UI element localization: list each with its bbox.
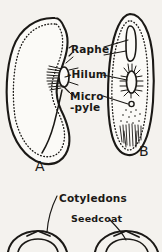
seed-a-outline	[7, 18, 70, 164]
label-micropyle-line2: -pyle	[70, 101, 100, 113]
seedhalf-left-outline	[8, 231, 67, 252]
label-cotyledons: Cotyledons	[59, 192, 127, 204]
caption-figure-a: A	[35, 158, 45, 174]
seed-b-micropyle-pore	[129, 101, 134, 106]
seed-b-hilum	[127, 71, 137, 93]
leader-cotyledons	[47, 196, 57, 232]
label-raphe: Raphe	[71, 43, 109, 55]
seedhalf-left-inner	[18, 239, 58, 252]
seedhalf-right-outline	[95, 231, 158, 252]
figure-b-group	[108, 14, 154, 155]
seed-diagram-page: Raphe -Hilum Micro -pyle A B Cotyledons …	[0, 0, 162, 252]
label-seedcoat: Seedcoat	[71, 213, 122, 224]
caption-figure-b: B	[139, 143, 149, 159]
seed-b-raphe-groove	[126, 26, 136, 61]
figure-c-group	[8, 196, 158, 252]
seedhalf-right-inner	[106, 239, 148, 252]
label-hilum: -Hilum	[67, 68, 107, 80]
